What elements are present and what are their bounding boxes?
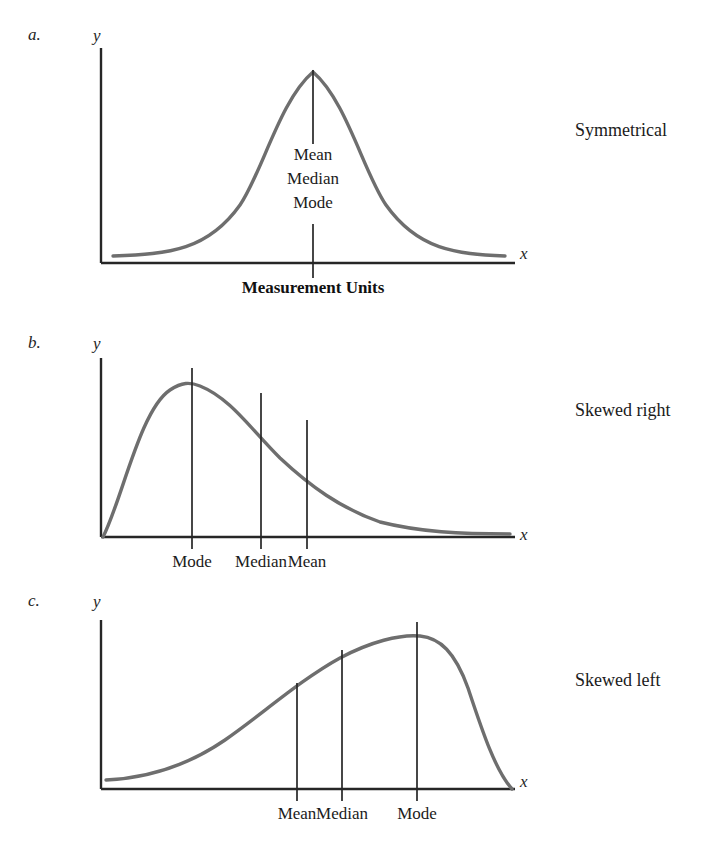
panel-a-center-labels: Mean Median Mode: [253, 143, 373, 215]
measurement-units-label: Measurement Units: [213, 278, 413, 298]
panel-b-tick-mean: Mean: [274, 552, 340, 572]
panel-a: a. y x Mean Median Mode Measurement Unit…: [0, 0, 725, 300]
figure-root: a. y x Mean Median Mode Measurement Unit…: [0, 0, 725, 863]
panel-b-tick-mode: Mode: [157, 552, 227, 572]
panel-b-plot: [0, 300, 725, 590]
panel-c-tick-mode: Mode: [382, 804, 452, 824]
panel-b-side-label: Skewed right: [575, 400, 670, 421]
panel-a-label-median: Median: [253, 167, 373, 191]
panel-c-curve: [106, 636, 512, 789]
panel-c: c. y x Mean Median Mode Skewed left: [0, 580, 725, 863]
panel-c-tick-median: Median: [302, 804, 382, 824]
panel-a-label-mean: Mean: [253, 143, 373, 167]
panel-a-side-label: Symmetrical: [575, 120, 667, 141]
panel-b: b. y x Mode Median Mean Skewed right: [0, 300, 725, 590]
panel-a-label-mode: Mode: [253, 191, 373, 215]
panel-c-side-label: Skewed left: [575, 670, 660, 691]
